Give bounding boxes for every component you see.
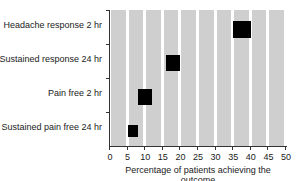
y-category-label: Headache response 2 hr: [3, 20, 102, 30]
x-tick: [197, 146, 198, 150]
x-tick: [285, 146, 286, 150]
x-tick: [179, 146, 180, 150]
grid-band: [111, 10, 126, 146]
x-tick: [162, 146, 163, 150]
grid-band: [164, 10, 179, 146]
grid-band: [252, 10, 267, 146]
x-tick: [127, 146, 128, 150]
x-tick-label: 5: [125, 152, 130, 162]
data-marker: [138, 89, 152, 105]
x-tick: [144, 146, 145, 150]
y-tick: [106, 112, 110, 113]
x-tick-label: 50: [281, 152, 291, 162]
y-tick: [106, 78, 110, 79]
y-category-label: Pain free 2 hr: [48, 88, 102, 98]
grid-band: [199, 10, 214, 146]
x-tick-label: 35: [228, 152, 238, 162]
y-category-label: Sustained pain free 24 hr: [1, 122, 102, 132]
grid-band: [181, 10, 196, 146]
x-tick-label: 40: [246, 152, 256, 162]
x-tick: [109, 146, 110, 150]
x-axis: [109, 146, 287, 147]
grid-band: [217, 10, 232, 146]
x-tick: [215, 146, 216, 150]
x-tick-label: 15: [158, 152, 168, 162]
y-tick: [106, 10, 110, 11]
data-marker: [233, 21, 251, 38]
data-marker: [128, 125, 139, 138]
x-tick-label: 20: [175, 152, 185, 162]
x-tick: [250, 146, 251, 150]
grid-band: [146, 10, 161, 146]
x-tick: [267, 146, 268, 150]
y-category-label: Sustained response 24 hr: [0, 54, 102, 64]
grid-band: [269, 10, 284, 146]
x-tick-label: 25: [193, 152, 203, 162]
x-tick-label: 45: [263, 152, 273, 162]
x-tick-label: 10: [140, 152, 150, 162]
x-tick-label: 30: [211, 152, 221, 162]
x-tick-label: 0: [107, 152, 112, 162]
x-axis-title: Percentage of patients achieving the out…: [110, 165, 286, 181]
data-marker: [166, 55, 180, 71]
x-tick: [232, 146, 233, 150]
y-tick: [106, 44, 110, 45]
